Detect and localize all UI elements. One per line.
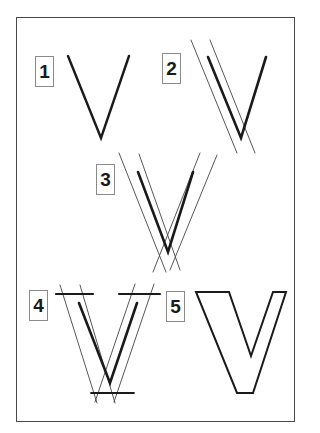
step-3-label: 3 — [96, 164, 115, 195]
step-4-guides — [56, 284, 160, 403]
step-2-label: 2 — [162, 53, 181, 84]
step-5-label: 5 — [166, 291, 185, 322]
step-1-label: 1 — [35, 56, 54, 87]
step-4-label: 4 — [29, 290, 48, 321]
step-3-guides — [119, 153, 217, 272]
step-5-v-outline — [196, 292, 286, 393]
step-2-guides — [191, 40, 266, 153]
step-1-v-skeleton — [68, 56, 129, 138]
